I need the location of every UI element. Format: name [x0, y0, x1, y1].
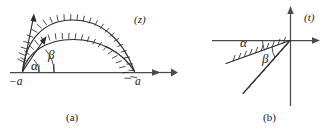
panel-a-axis-left-label: −a [9, 76, 23, 88]
figure-root: (z) −a a α β (a) (t) α β (b) [0, 0, 332, 136]
panel-a-angle-ticks [39, 65, 54, 73]
panel-b-horizontal-axis [212, 37, 320, 43]
panel-b-vertical-axis [287, 6, 293, 106]
panel-a-axis-right-label: a [135, 76, 141, 88]
transform-arrow-icon [160, 69, 178, 77]
panel-b-angle-beta-label: β [262, 52, 268, 65]
panel-b-angle-alpha-arc [263, 41, 265, 50]
panel-a-angle-alpha-label: α [31, 59, 38, 72]
panel-a-angle-beta-label: β [48, 48, 54, 61]
panel-b-angle-alpha-label: α [240, 36, 247, 49]
panel-a-caption: (a) [66, 112, 78, 123]
panel-a-plane-label: (z) [134, 14, 146, 25]
panel-b-plane-label: (t) [304, 12, 314, 23]
panel-b-shallow-ray [226, 37, 290, 63]
panel-b-caption: (b) [263, 112, 276, 123]
figure-canvas [0, 0, 332, 136]
panel-b-angle-beta-arc [272, 47, 275, 58]
